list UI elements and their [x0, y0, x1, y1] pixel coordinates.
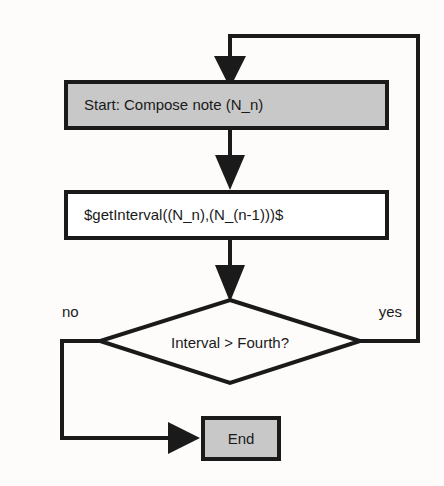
flowchart-svg: Start: Compose note (N_n) $getInterval((… [0, 0, 444, 486]
decision-label: Interval > Fourth? [171, 334, 289, 351]
edge-label-no: no [62, 303, 79, 320]
node-end[interactable]: End [203, 418, 279, 459]
arrowhead-into-decision [215, 265, 245, 302]
edge-process-to-decision [215, 238, 245, 302]
end-box-label: End [228, 430, 255, 447]
edge-start-to-process [215, 128, 245, 190]
arrowhead-into-process [215, 155, 245, 190]
flowchart-canvas: Start: Compose note (N_n) $getInterval((… [0, 0, 444, 486]
node-start[interactable]: Start: Compose note (N_n) [66, 82, 387, 128]
node-decision[interactable]: Interval > Fourth? [100, 300, 360, 383]
process-box-label: $getInterval((N_n),(N_(n-1)))$ [84, 206, 284, 223]
start-box-label: Start: Compose note (N_n) [84, 96, 263, 113]
node-process[interactable]: $getInterval((N_n),(N_(n-1)))$ [66, 192, 387, 238]
edge-label-yes: yes [379, 303, 402, 320]
arrowhead-into-end [168, 422, 200, 454]
